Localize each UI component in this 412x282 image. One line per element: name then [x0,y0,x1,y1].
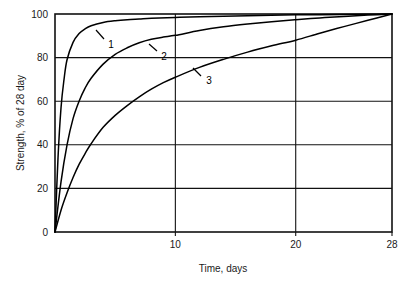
curve-label-3: 3 [206,75,212,86]
chart-figure: 123 102028020406080100 Time, days Streng… [0,0,412,282]
y-tick-label: 60 [37,96,49,107]
y-tick-label: 20 [37,183,49,194]
curve-label-2: 2 [161,51,167,62]
curve-label-1: 1 [108,39,114,50]
y-tick-label: 40 [37,139,49,150]
strength-vs-time-chart: 123 102028020406080100 Time, days Streng… [0,0,412,282]
y-tick-label: 0 [42,227,48,238]
y-tick-label: 80 [37,52,49,63]
y-axis-title: Strength, % of 28 day [15,75,26,171]
chart-background [0,0,412,282]
x-tick-label: 28 [386,239,398,250]
y-tick-label: 100 [31,9,48,20]
x-tick-label: 10 [170,239,182,250]
x-tick-label: 20 [290,239,302,250]
x-axis-title: Time, days [199,263,248,274]
